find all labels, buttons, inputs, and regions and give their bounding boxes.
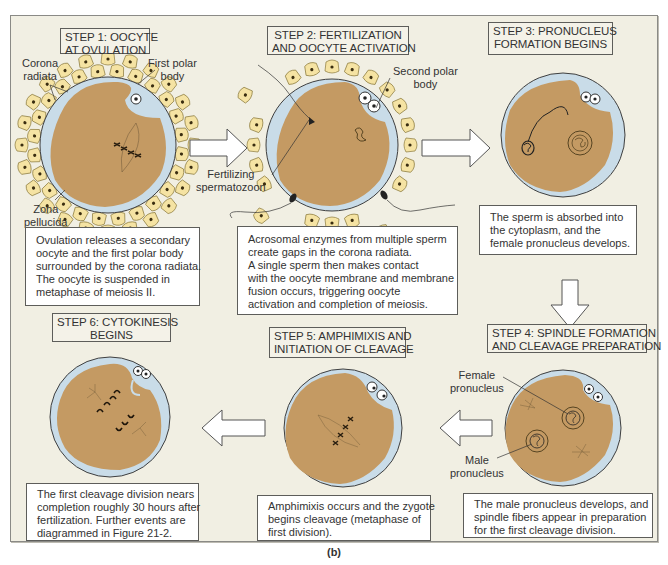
step3-title-line1: STEP 3: PRONUCLEUS bbox=[493, 25, 608, 38]
label-second-polar-body: Second polar body bbox=[393, 65, 458, 90]
step5-description: Amphimixis occurs and the zygote begins … bbox=[257, 495, 431, 541]
step4-title: STEP 4: SPINDLE FORMATION AND CLEAVAGE P… bbox=[487, 324, 647, 353]
label-male-line1: Male bbox=[450, 454, 504, 467]
step2-desc-line: fusion occurs, triggering oocyte bbox=[248, 285, 447, 298]
label-female-pronucleus: Female pronucleus bbox=[450, 369, 504, 394]
step3-oocyte bbox=[501, 73, 625, 197]
step2-title-line2: AND OOCYTE ACTIVATION bbox=[272, 42, 404, 55]
step4-desc-line: spindle fibers appear in preparation bbox=[474, 511, 642, 524]
step5-oocyte bbox=[284, 369, 402, 487]
step2-title-line1: STEP 2: FERTILIZATION bbox=[272, 29, 404, 42]
label-corona-radiata: Corona radiata bbox=[22, 57, 58, 82]
step4-title-line1: STEP 4: SPINDLE FORMATION bbox=[492, 327, 642, 340]
step5-desc-line: begins cleavage (metaphase of bbox=[268, 513, 420, 526]
step4-desc-line: The male pronucleus develops, and bbox=[474, 498, 642, 511]
step3-desc-line: the cytoplasm, and the bbox=[490, 224, 626, 237]
step4-title-line2: AND CLEAVAGE PREPARATION bbox=[492, 340, 642, 353]
arrow-step4-to-step5 bbox=[440, 410, 492, 446]
label-sperm-line1: Fertilizing bbox=[196, 168, 266, 181]
step1-desc-line: Ovulation releases a secondary bbox=[36, 234, 189, 247]
step1-title-line1: STEP 1: OOCYTE bbox=[65, 31, 145, 44]
step3-desc-line: female pronucleus develops. bbox=[490, 237, 626, 250]
label-zona-line1: Zona bbox=[24, 203, 67, 216]
step2-desc-line: with the oocyte membrane and membrane bbox=[248, 272, 447, 285]
step5-title-line2: INITIATION OF CLEAVAGE bbox=[274, 343, 401, 356]
step6-desc-line: The first cleavage division nears bbox=[37, 488, 188, 501]
step2-desc-line: create gaps in the corona radiata. bbox=[248, 246, 447, 259]
step2-desc-line: activation and completion of meiosis. bbox=[248, 298, 447, 311]
step6-oocyte bbox=[50, 357, 170, 477]
step5-title: STEP 5: AMPHIMIXIS AND INITIATION OF CLE… bbox=[269, 327, 406, 358]
step2-desc-line: A single sperm then makes contact bbox=[248, 259, 447, 272]
step1-description: Ovulation releases a secondary oocyte an… bbox=[25, 227, 200, 306]
arrow-step5-to-step6 bbox=[202, 410, 265, 446]
label-first-polar-body: First polar body bbox=[148, 57, 197, 82]
step1-title-line2: AT OVULATION bbox=[65, 44, 145, 57]
step3-title-line2: FORMATION BEGINS bbox=[493, 38, 608, 51]
label-female-line1: Female bbox=[450, 369, 504, 382]
step6-desc-line: completion roughly 30 hours after bbox=[37, 501, 188, 514]
figure-caption: (b) bbox=[0, 546, 668, 558]
arrow-step2-to-step3 bbox=[422, 129, 490, 167]
step4-description: The male pronucleus develops, and spindl… bbox=[463, 493, 653, 538]
arrow-step3-to-step4 bbox=[551, 280, 589, 328]
label-second-polar-line1: Second polar bbox=[393, 65, 458, 78]
step4-desc-line: for the first cleavage division. bbox=[474, 524, 642, 537]
label-first-polar-line2: body bbox=[148, 70, 197, 83]
step6-description: The first cleavage division nears comple… bbox=[26, 483, 199, 541]
step1-desc-line: oocyte and the first polar body bbox=[36, 247, 189, 260]
label-male-line2: pronucleus bbox=[450, 467, 504, 480]
step6-desc-line: diagrammed in Figure 21-2. bbox=[37, 527, 188, 540]
label-corona-line1: Corona bbox=[22, 57, 58, 70]
step6-title-line2: BEGINS bbox=[57, 329, 166, 342]
label-zona-pellucida: Zona pellucida bbox=[24, 203, 67, 228]
label-first-polar-line1: First polar bbox=[148, 57, 197, 70]
label-fertilizing-spermatozoon: Fertilizing spermatozoon bbox=[196, 168, 266, 193]
label-corona-line2: radiata bbox=[22, 70, 58, 83]
arrow-step1-to-step2 bbox=[190, 129, 247, 167]
step5-desc-line: Amphimixis occurs and the zygote bbox=[268, 500, 420, 513]
step1-desc-line: metaphase of meiosis II. bbox=[36, 286, 189, 299]
step1-title: STEP 1: OOCYTE AT OVULATION bbox=[60, 28, 150, 54]
step2-title: STEP 2: FERTILIZATION AND OOCYTE ACTIVAT… bbox=[267, 26, 409, 55]
label-male-pronucleus: Male pronucleus bbox=[450, 454, 504, 479]
step3-description: The sperm is absorbed into the cytoplasm… bbox=[479, 205, 637, 255]
step5-title-line1: STEP 5: AMPHIMIXIS AND bbox=[274, 330, 401, 343]
label-sperm-line2: spermatozoon bbox=[196, 181, 266, 194]
step6-title: STEP 6: CYTOKINESIS BEGINS bbox=[52, 313, 171, 342]
step5-desc-line: first division). bbox=[268, 526, 420, 539]
step2-desc-line: Acrosomal enzymes from multiple sperm bbox=[248, 233, 447, 246]
step1-desc-line: The oocyte is suspended in bbox=[36, 273, 189, 286]
step3-title: STEP 3: PRONUCLEUS FORMATION BEGINS bbox=[488, 22, 613, 55]
step6-desc-line: fertilization. Further events are bbox=[37, 514, 188, 527]
step6-title-line1: STEP 6: CYTOKINESIS bbox=[57, 316, 166, 329]
step1-desc-line: surrounded by the corona radiata. bbox=[36, 260, 189, 273]
label-second-polar-line2: body bbox=[393, 78, 458, 91]
step4-oocyte bbox=[497, 370, 621, 486]
step2-description: Acrosomal enzymes from multiple sperm cr… bbox=[237, 226, 458, 315]
step3-desc-line: The sperm is absorbed into bbox=[490, 211, 626, 224]
label-female-line2: pronucleus bbox=[450, 382, 504, 395]
